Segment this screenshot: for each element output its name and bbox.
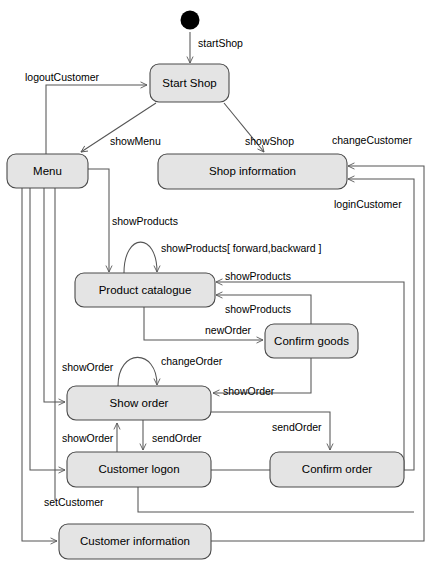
edge-label-start-shop: startShop <box>198 37 243 49</box>
edge-show-products-self-loop <box>124 242 157 273</box>
edge-customer-logon-to-bus <box>138 486 414 512</box>
edge-label-show-order-from-menu: showOrder <box>62 361 114 373</box>
edge-label-show-order-from-confirm-goods: showOrder <box>223 385 275 397</box>
edge-set-customer <box>22 187 57 541</box>
edge-label-logout-customer: logoutCustomer <box>25 71 100 83</box>
state-label-start-shop: Start Shop <box>162 77 216 89</box>
edge-label-show-order-from-customer-logon: showOrder <box>62 432 114 444</box>
state-menu[interactable]: Menu <box>7 154 88 188</box>
state-product-catalogue[interactable]: Product catalogue <box>75 273 215 307</box>
state-shop-information[interactable]: Shop information <box>158 154 347 189</box>
state-customer-logon[interactable]: Customer logon <box>67 452 211 487</box>
edge-menu-to-customer-logon <box>30 187 65 470</box>
edge-label-login-customer: loginCustomer <box>334 198 402 210</box>
state-start-shop[interactable]: Start Shop <box>150 64 229 102</box>
state-customer-information[interactable]: Customer information <box>59 524 211 559</box>
uml-state-diagram: Start Shop Menu Shop information Product… <box>0 0 432 567</box>
state-label-customer-logon: Customer logon <box>98 463 179 475</box>
state-label-show-order: Show order <box>110 397 169 409</box>
state-label-confirm-goods: Confirm goods <box>274 335 349 347</box>
edge-label-set-customer: setCustomer <box>44 496 104 508</box>
state-label-shop-information: Shop information <box>209 165 296 177</box>
edge-label-show-products-from-menu: showProducts <box>112 215 178 227</box>
state-label-confirm-order: Confirm order <box>302 463 372 475</box>
state-label-product-catalogue: Product catalogue <box>99 284 192 296</box>
state-show-order[interactable]: Show order <box>67 386 211 420</box>
edge-label-show-menu: showMenu <box>110 135 161 147</box>
edge-label-show-products-self-loop: showProducts[ forward,backward ] <box>161 242 322 254</box>
state-confirm-order[interactable]: Confirm order <box>270 452 404 487</box>
edge-label-show-shop: showShop <box>245 135 294 147</box>
edge-label-new-order: newOrder <box>205 324 252 336</box>
edge-change-order-self-loop <box>118 357 157 386</box>
edge-label-send-order-to-customer-logon: sendOrder <box>152 432 202 444</box>
diagram-canvas: Start Shop Menu Shop information Product… <box>0 0 432 567</box>
state-confirm-goods[interactable]: Confirm goods <box>265 324 358 358</box>
state-label-menu: Menu <box>33 165 62 177</box>
edge-label-show-products-from-confirm-order: showProducts <box>225 270 291 282</box>
edge-label-change-customer: changeCustomer <box>332 134 412 146</box>
state-label-customer-information: Customer information <box>80 535 190 547</box>
edge-show-products-from-menu <box>88 169 109 272</box>
initial-node <box>181 11 200 30</box>
edge-label-change-order: changeOrder <box>161 355 223 367</box>
edge-label-send-order-to-confirm-order: sendOrder <box>272 421 322 433</box>
edge-label-show-products-from-confirm-goods: showProducts <box>225 303 291 315</box>
